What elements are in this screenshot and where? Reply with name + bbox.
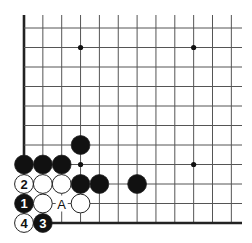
black-stone bbox=[128, 175, 147, 194]
white-stone bbox=[33, 175, 52, 194]
black-stone bbox=[90, 175, 109, 194]
black-stone-icon bbox=[128, 175, 147, 194]
black-stone bbox=[71, 136, 90, 155]
white-stone bbox=[71, 194, 90, 213]
white-stone: 2 bbox=[15, 175, 34, 194]
white-stone bbox=[52, 175, 71, 194]
black-stone bbox=[71, 175, 90, 194]
black-stone bbox=[52, 155, 71, 174]
white-stone: 4 bbox=[15, 214, 34, 233]
black-stone-icon bbox=[71, 136, 90, 155]
star-point-icon bbox=[191, 162, 196, 167]
white-stone-icon bbox=[71, 194, 90, 213]
point-marker-label: A bbox=[57, 197, 66, 212]
go-board: 2143 A bbox=[0, 0, 252, 243]
black-stone bbox=[15, 155, 34, 174]
move-number-label: 2 bbox=[20, 177, 27, 192]
star-point-icon bbox=[191, 45, 196, 50]
move-number-label: 1 bbox=[20, 196, 27, 211]
white-stone bbox=[33, 194, 52, 213]
move-number-label: 3 bbox=[39, 216, 46, 231]
star-point-icon bbox=[78, 162, 83, 167]
black-stone bbox=[33, 155, 52, 174]
black-stone-icon bbox=[52, 155, 71, 174]
black-stone-icon bbox=[33, 155, 52, 174]
markers-layer: A bbox=[56, 196, 68, 212]
star-point-icon bbox=[78, 45, 83, 50]
black-stone: 1 bbox=[15, 194, 34, 213]
white-stone-icon bbox=[33, 175, 52, 194]
black-stone-icon bbox=[90, 175, 109, 194]
black-stone-icon bbox=[71, 175, 90, 194]
black-stone: 3 bbox=[33, 214, 52, 233]
white-stone-icon bbox=[33, 194, 52, 213]
white-stone-icon bbox=[52, 175, 71, 194]
black-stone-icon bbox=[15, 155, 34, 174]
move-number-label: 4 bbox=[20, 216, 28, 231]
